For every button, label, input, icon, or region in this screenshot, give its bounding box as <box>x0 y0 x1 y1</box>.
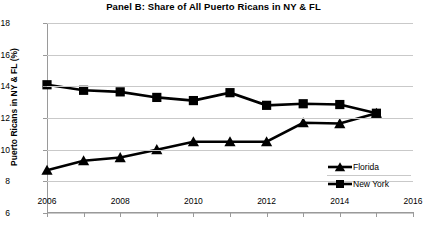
gridline-horizontal <box>47 86 413 87</box>
x-tick-label: 2010 <box>173 196 213 206</box>
y-tick-label: 12 <box>0 114 10 122</box>
data-point-marker <box>262 101 271 110</box>
x-tick-label: 2014 <box>320 196 360 206</box>
chart-legend: Florida New York <box>327 158 411 192</box>
y-tick-label: 16 <box>0 51 10 59</box>
y-tick-label: 10 <box>0 146 10 154</box>
legend-label-florida: Florida <box>353 162 379 172</box>
data-point-marker <box>299 99 308 108</box>
legend-marker-triangle-icon <box>327 161 353 173</box>
x-tick-mark <box>120 212 121 217</box>
data-point-marker <box>42 80 51 89</box>
legend-marker-square-icon <box>327 178 353 190</box>
x-tick-mark-minor <box>376 213 377 217</box>
y-tick-mark <box>43 86 47 87</box>
y-tick-label: 18 <box>0 19 10 27</box>
data-point-marker <box>152 93 161 102</box>
legend-label-new-york: New York <box>353 179 389 189</box>
x-tick-label: 2008 <box>100 196 140 206</box>
x-tick-mark <box>340 212 341 217</box>
gridline-horizontal <box>47 118 413 119</box>
gridline-horizontal <box>47 150 413 151</box>
y-tick-mark <box>43 118 47 119</box>
gridline-horizontal <box>47 23 413 24</box>
data-point-marker <box>116 87 125 96</box>
x-tick-mark <box>413 212 414 217</box>
x-tick-label: 2016 <box>393 196 427 206</box>
chart-container: Panel B: Share of All Puerto Ricans in N… <box>0 0 427 235</box>
y-tick-label: 14 <box>0 82 10 90</box>
legend-item-florida: Florida <box>327 158 411 175</box>
y-tick-mark <box>43 181 47 182</box>
x-tick-mark <box>267 212 268 217</box>
y-axis-title: Puerto Ricans in NY & FL (%) <box>9 27 19 187</box>
y-tick-label: 8 <box>0 177 10 185</box>
series-line-new-york <box>47 85 376 114</box>
data-point-marker <box>225 88 234 97</box>
x-tick-mark <box>47 212 48 217</box>
x-tick-label: 2012 <box>247 196 287 206</box>
x-tick-mark-minor <box>157 213 158 217</box>
x-tick-mark-minor <box>84 213 85 217</box>
y-tick-label: 6 <box>0 209 10 217</box>
data-point-marker <box>372 109 381 118</box>
legend-item-new-york: New York <box>327 175 411 192</box>
x-tick-mark <box>193 212 194 217</box>
y-tick-mark <box>43 23 47 24</box>
y-tick-mark <box>43 150 47 151</box>
y-tick-mark <box>43 55 47 56</box>
chart-title: Panel B: Share of All Puerto Ricans in N… <box>0 1 427 12</box>
gridline-horizontal <box>47 55 413 56</box>
x-tick-mark-minor <box>303 213 304 217</box>
x-tick-label: 2006 <box>27 196 67 206</box>
data-point-marker <box>335 100 344 109</box>
x-tick-mark-minor <box>230 213 231 217</box>
data-point-marker <box>189 96 198 105</box>
